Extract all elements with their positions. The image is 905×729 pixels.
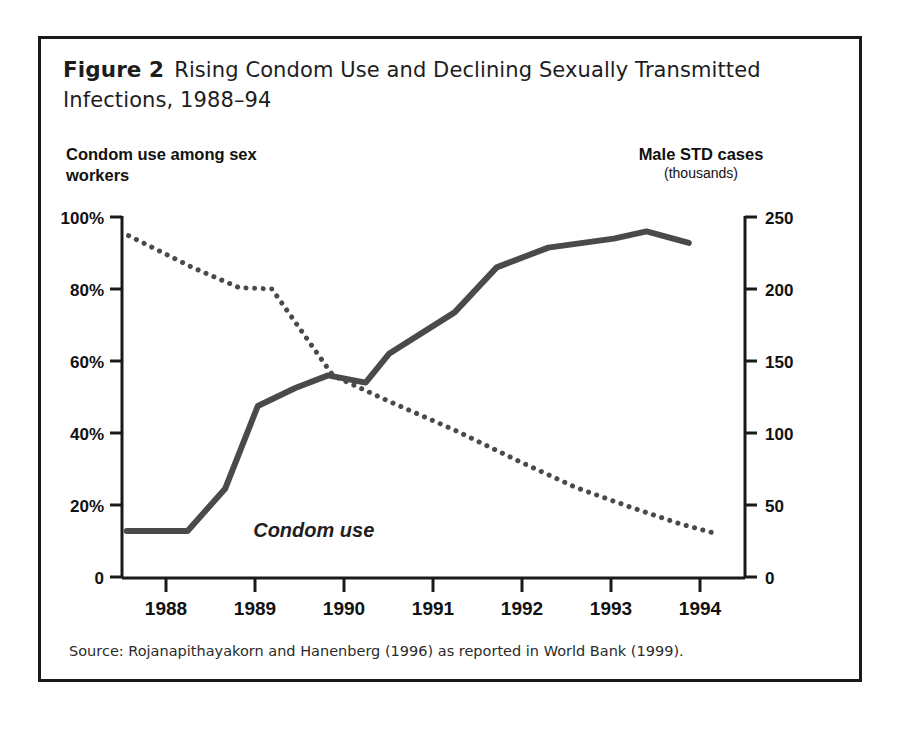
figure-title-text: Rising Condom Use and Declining Sexually… <box>63 58 761 112</box>
figure-label: Figure 2 <box>63 57 164 82</box>
figure-page: Figure 2Rising Condom Use and Declining … <box>0 0 905 729</box>
figure-source-note: Source: Rojanapithayakorn and Hanenberg … <box>69 641 849 661</box>
right-axis-title-sub: (thousands) <box>612 164 790 182</box>
right-axis-title-main: Male STD cases <box>612 144 790 164</box>
right-axis-title: Male STD cases (thousands) <box>612 144 790 182</box>
figure-title-block: Figure 2Rising Condom Use and Declining … <box>63 55 833 115</box>
figure-frame: Figure 2Rising Condom Use and Declining … <box>38 36 862 682</box>
left-axis-title: Condom use among sex workers <box>66 144 296 186</box>
